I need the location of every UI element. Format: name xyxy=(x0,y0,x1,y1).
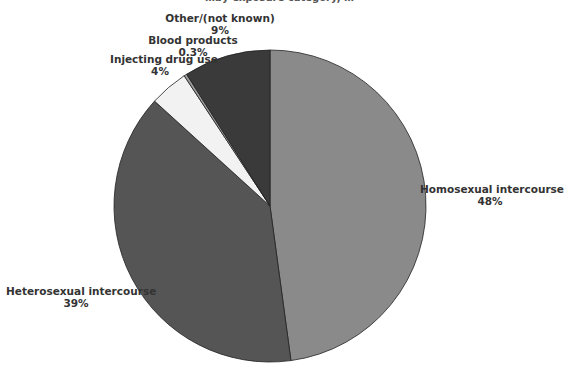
label-other: Other/(not known) 9% xyxy=(160,12,280,36)
label-blood-value: 0.3% xyxy=(138,46,248,58)
label-heterosexual: Heterosexual intercourse 39% xyxy=(6,285,146,309)
label-blood: Blood products 0.3% xyxy=(138,34,248,58)
label-heterosexual-value: 39% xyxy=(6,297,146,309)
label-homosexual: Homosexual intercourse 48% xyxy=(420,183,560,207)
label-heterosexual-name: Heterosexual intercourse xyxy=(6,285,146,297)
label-injecting-value: 4% xyxy=(110,65,210,77)
label-other-value: 9% xyxy=(160,24,280,36)
label-homosexual-value: 48% xyxy=(420,195,560,207)
label-homosexual-name: Homosexual intercourse xyxy=(420,183,560,195)
pie-slice-homosexual-intercourse xyxy=(270,50,426,361)
label-other-name: Other/(not known) xyxy=(160,12,280,24)
